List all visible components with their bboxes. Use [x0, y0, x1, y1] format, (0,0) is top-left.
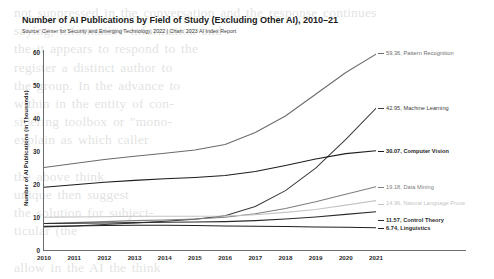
end-label-data-mining: 19.18, Data Mining: [386, 184, 434, 190]
x-axis-tick-2021: 2021: [369, 254, 383, 261]
y-axis-tick-30: 30: [33, 148, 40, 155]
x-axis-tick-2012: 2012: [97, 254, 111, 261]
leader-line-pattern-recognition: [378, 53, 384, 54]
line-machine-learning: [44, 108, 376, 227]
leader-line-linguistics: [378, 228, 384, 229]
end-label-natural-language-processing: 14.96, Natural Language Proce: [386, 200, 465, 206]
end-label-linguistics: 6.74, Linguistics: [386, 225, 430, 231]
leader-line-data-mining: [378, 187, 384, 188]
line-pattern-recognition: [44, 54, 376, 167]
plot-area: [44, 52, 376, 250]
leader-line-machine-learning: [378, 108, 384, 109]
end-label-pattern-recognition: 59.36, Pattern Recognition: [386, 50, 454, 56]
line-natural-language-processing: [44, 201, 376, 218]
x-axis-tick-2014: 2014: [158, 254, 172, 261]
x-axis-tick-2010: 2010: [37, 254, 51, 261]
leader-line-control-theory: [378, 220, 384, 221]
chart-container: Number of AI Publications by Field of St…: [0, 0, 494, 279]
leader-line-computer-vision: [378, 151, 384, 152]
x-axis-tick-2017: 2017: [248, 254, 262, 261]
y-axis-tick-20: 20: [33, 181, 40, 188]
x-axis-tick-2013: 2013: [128, 254, 142, 261]
y-axis-tick-labels: 0102030405060: [22, 0, 40, 279]
x-axis-tick-2018: 2018: [279, 254, 293, 261]
y-axis-tick-0: 0: [36, 247, 40, 254]
x-axis-tick-2011: 2011: [67, 254, 80, 261]
chart-title: Number of AI Publications by Field of St…: [22, 15, 338, 25]
line-data-mining: [44, 187, 376, 224]
chart-subtitle-source: Source: Center for Security and Emerging…: [22, 28, 236, 34]
line-computer-vision: [44, 151, 376, 188]
line-linguistics: [44, 225, 376, 228]
y-axis-tick-40: 40: [33, 115, 40, 122]
y-axis-tick-10: 10: [33, 214, 40, 221]
leader-line-natural-language-processing: [378, 204, 384, 205]
y-axis-tick-60: 60: [33, 49, 40, 56]
series-lines: [44, 52, 376, 250]
x-axis-tick-2015: 2015: [188, 254, 202, 261]
x-axis-tick-2019: 2019: [309, 254, 323, 261]
end-label-computer-vision: 30.07, Computer Vision: [386, 148, 449, 154]
x-axis-tick-2020: 2020: [339, 254, 353, 261]
x-axis-tick-2016: 2016: [218, 254, 232, 261]
end-label-control-theory: 11.57, Control Theory: [386, 217, 444, 223]
end-label-machine-learning: 42.95, Machine Learning: [386, 105, 449, 111]
y-axis-tick-50: 50: [33, 82, 40, 89]
